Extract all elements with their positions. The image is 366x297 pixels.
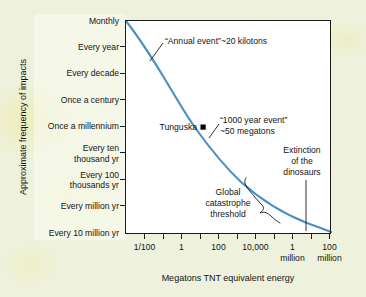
extinction-label-line3: dinosaurs — [283, 167, 320, 177]
x-axis-tick-labels: 1/100 1 100 10,000 1 million 100 million — [134, 242, 342, 263]
extinction-label-line2: of the — [291, 156, 313, 166]
x-tick-label-1-million-top: 1 — [290, 242, 295, 252]
y-axis-title: Approximate frequency of impacts — [18, 58, 28, 195]
tunguska-data-point — [201, 125, 206, 130]
y-tick-label-every-million-yr: Every million yr — [61, 201, 119, 211]
x-axis-title: Megatons TNT equivalent energy — [162, 273, 295, 283]
thousand-year-event-label-line2: ~50 megatons — [220, 126, 275, 136]
y-tick-label-monthly: Monthly — [89, 16, 120, 26]
x-tick-label-10000: 10,000 — [242, 242, 269, 252]
y-tick-label-every-10-million-yr: Every 10 million yr — [49, 228, 119, 238]
extinction-label-line1: Extinction — [283, 145, 320, 155]
global-catastrophe-label-line3: threshold — [210, 209, 246, 219]
x-tick-label-100-million-top: 100 — [322, 242, 337, 252]
x-tick-label-100-million-bottom: million — [317, 253, 342, 263]
y-tick-label-every-ten-thousand-yr-line2: thousand yr — [74, 154, 119, 164]
y-tick-label-once-a-millennium: Once a millennium — [48, 121, 119, 131]
x-tick-label-1-million-bottom: million — [280, 253, 305, 263]
y-tick-label-every-100-thousands-yr-line2: thousands yr — [70, 180, 119, 190]
tunguska-label: Tunguska — [160, 122, 198, 132]
y-tick-label-every-100-thousands-yr-line1: Every 100 — [80, 170, 119, 180]
chart-canvas: Monthly Every year Every decade Once a c… — [0, 0, 366, 297]
x-tick-label-1-over-100: 1/100 — [134, 242, 156, 252]
y-tick-label-every-year: Every year — [78, 42, 119, 52]
thousand-year-event-label-line1: “1000 year event” — [220, 115, 287, 125]
impact-frequency-chart: Monthly Every year Every decade Once a c… — [0, 0, 366, 297]
y-tick-label-every-ten-thousand-yr-line1: Every ten — [83, 143, 120, 153]
annotation-tunguska: Tunguska — [160, 122, 198, 132]
y-tick-label-every-decade: Every decade — [66, 68, 119, 78]
x-tick-label-100: 100 — [211, 242, 226, 252]
global-catastrophe-label-line2: catastrophe — [206, 198, 251, 208]
annual-event-label: “Annual event”~20 kilotons — [165, 36, 267, 46]
global-catastrophe-label-line1: Global — [216, 187, 241, 197]
y-tick-label-once-a-century: Once a century — [61, 95, 120, 105]
x-tick-label-1: 1 — [179, 242, 184, 252]
